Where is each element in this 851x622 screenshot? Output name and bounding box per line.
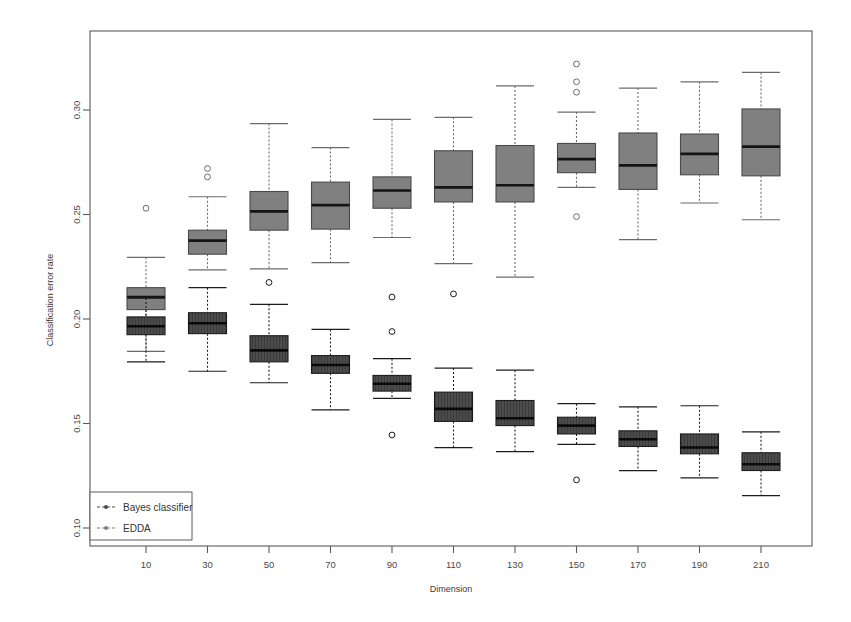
x-tick-label-5: 110 bbox=[446, 559, 461, 570]
box-rect bbox=[496, 401, 534, 426]
x-tick-label-4: 90 bbox=[387, 559, 398, 570]
y-tick-label-1: 0.25 bbox=[71, 205, 82, 224]
box-rect bbox=[742, 109, 780, 176]
box-rect bbox=[250, 336, 288, 362]
box-rect bbox=[189, 230, 227, 254]
box-rect bbox=[619, 133, 657, 189]
boxplot-figure: 0.300.250.200.150.10 1030507090110130150… bbox=[0, 0, 851, 622]
x-tick-label-6: 130 bbox=[507, 559, 523, 570]
y-tick-label-3: 0.15 bbox=[71, 414, 82, 433]
box-rect bbox=[496, 146, 534, 202]
legend-label-1: EDDA bbox=[123, 523, 151, 534]
legend-label-0: Bayes classifier bbox=[123, 502, 193, 513]
x-tick-label-3: 70 bbox=[325, 559, 336, 570]
box-rect bbox=[373, 177, 411, 208]
x-tick-label-2: 50 bbox=[264, 559, 275, 570]
y-axis-title: Classification error rate bbox=[45, 254, 55, 347]
y-tick-label-2: 0.20 bbox=[71, 310, 82, 329]
x-tick-label-1: 30 bbox=[202, 559, 213, 570]
box-rect bbox=[742, 453, 780, 471]
legend-marker-dot bbox=[104, 505, 108, 509]
box-rect bbox=[435, 392, 473, 421]
box-rect bbox=[681, 434, 719, 454]
y-tick-label-4: 0.10 bbox=[71, 519, 82, 538]
chart-legend: Bayes classifierEDDA bbox=[90, 492, 193, 540]
x-tick-label-7: 150 bbox=[569, 559, 585, 570]
box-rect bbox=[435, 151, 473, 202]
y-tick-label-0: 0.30 bbox=[71, 101, 82, 120]
x-tick-label-0: 10 bbox=[141, 559, 152, 570]
x-axis-title: Dimension bbox=[430, 584, 473, 594]
x-tick-label-8: 170 bbox=[630, 559, 646, 570]
x-tick-label-9: 190 bbox=[692, 559, 708, 570]
legend-marker-dot bbox=[104, 526, 108, 530]
x-tick-label-10: 210 bbox=[753, 559, 769, 570]
